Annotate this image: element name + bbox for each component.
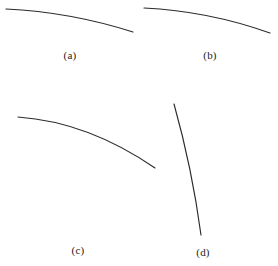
panel-label-d: (d) bbox=[196, 247, 209, 258]
curve-c bbox=[18, 117, 155, 168]
curve-d bbox=[174, 104, 201, 235]
panel-label-c: (c) bbox=[72, 245, 85, 256]
curve-a bbox=[6, 9, 133, 32]
curve-figure: (a) (b) (c) (d) bbox=[0, 0, 278, 266]
curves-canvas bbox=[0, 0, 278, 266]
panel-label-b: (b) bbox=[203, 50, 216, 61]
curve-b bbox=[144, 8, 270, 33]
panel-label-a: (a) bbox=[64, 50, 77, 61]
